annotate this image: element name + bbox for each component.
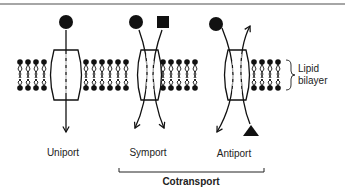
uniport-transporter: [51, 15, 82, 132]
symport-label: Symport: [129, 147, 166, 158]
solute-circle: [209, 17, 223, 31]
solute-circle: [59, 15, 73, 29]
membrane-label-line-2: bilayer: [298, 75, 328, 86]
transport-diagram: Lipid bilayer Uniport Symport Antiport C…: [0, 0, 345, 195]
bilayer-brace: [286, 60, 295, 90]
solute-square: [157, 16, 169, 28]
uniport-label: Uniport: [47, 147, 79, 158]
solute-circle: [129, 15, 143, 29]
antiport-transporter: [209, 17, 259, 136]
antiport-label: Antiport: [217, 148, 252, 159]
solute-triangle: [243, 125, 259, 136]
cotransport-bracket: [119, 168, 264, 172]
cotransport-label: Cotransport: [162, 176, 220, 187]
membrane-label-line-1: Lipid: [298, 63, 319, 74]
